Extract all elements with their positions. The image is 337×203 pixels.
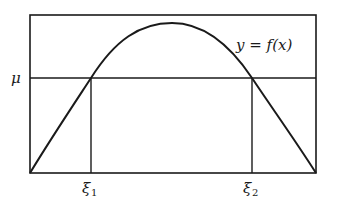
svg-text:ξ: ξ [243,179,252,197]
svg-text:1: 1 [91,187,97,198]
mu-label: μ [11,69,21,87]
curve-label: y = f(x) [235,36,292,54]
svg-text:ξ: ξ [82,179,91,197]
svg-text:2: 2 [252,187,258,198]
xi2-label: ξ 2 [243,179,258,198]
function-level-diagram: y = f(x) μ ξ 1 ξ 2 [0,0,337,203]
xi1-label: ξ 1 [82,179,97,198]
